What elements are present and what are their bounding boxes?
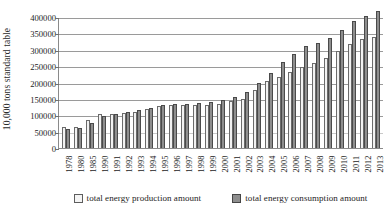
bar-group [132,18,144,148]
bar-group [155,18,167,148]
x-tick: 2012 [358,150,370,186]
x-tick: 2007 [298,150,310,186]
bar-consumption [221,100,225,148]
bar-consumption [233,97,237,148]
bar-group [143,18,155,148]
bar-consumption [197,103,201,148]
x-axis-tick-labels: 1978198019851990199119921993199419951996… [58,150,383,186]
legend-item[interactable]: total energy production amount [74,193,202,203]
x-tick: 1997 [179,150,191,186]
bar-consumption [126,112,130,148]
bar-group [251,18,263,148]
x-tick: 2010 [334,150,346,186]
bar-group [322,18,334,148]
bar-group [263,18,275,148]
x-tick: 2005 [274,150,286,186]
energy-bar-chart: 10,000 tons standard table 0500001000001… [0,0,391,214]
bar-group [167,18,179,148]
y-tick-label: 0 [14,145,56,154]
bar-consumption [281,62,285,148]
bar-group [108,18,120,148]
bar-group [60,18,72,148]
legend-label: total energy production amount [87,193,202,203]
bar-consumption [66,129,70,148]
bar-group [227,18,239,148]
plot-area [58,18,383,149]
y-tick-label: 50000 [14,129,56,138]
y-tick-label: 300000 [14,47,56,56]
bar-consumption [304,46,308,148]
x-tick: 2003 [251,150,263,186]
x-tick: 2002 [239,150,251,186]
bar-group [215,18,227,148]
bar-group [334,18,346,148]
bar-consumption [364,16,368,148]
x-tick: 1991 [107,150,119,186]
x-tick: 1995 [155,150,167,186]
x-tick: 2013 [370,150,382,186]
x-tick: 2009 [322,150,334,186]
x-tick: 2008 [310,150,322,186]
bar-consumption [161,105,165,148]
bar-consumption [269,73,273,148]
bar-consumption [149,108,153,148]
y-tick-label: 150000 [14,96,56,105]
x-tick-label: 2013 [376,156,385,173]
legend-swatch-consumption [232,194,241,203]
bar-group [179,18,191,148]
bar-group [84,18,96,148]
bar-consumption [328,38,332,148]
bar-group [310,18,322,148]
y-tick-label: 250000 [14,63,56,72]
bar-consumption [316,43,320,148]
bar-consumption [185,104,189,149]
y-axis-tick-labels: 0500001000001500002000002500003000003500… [14,18,56,149]
bar-group [203,18,215,148]
bar-consumption [114,114,118,148]
bar-group [96,18,108,148]
x-tick: 2000 [215,150,227,186]
bar-group [298,18,310,148]
x-tick: 2004 [262,150,274,186]
x-tick: 2011 [346,150,358,186]
x-tick: 1990 [95,150,107,186]
x-tick: 1980 [71,150,83,186]
bar-group [239,18,251,148]
bar-consumption [292,54,296,148]
bar-consumption [102,116,106,148]
x-tick: 2006 [286,150,298,186]
x-tick: 1985 [83,150,95,186]
y-tick-label: 100000 [14,112,56,121]
bar-group [72,18,84,148]
bar-consumption [352,21,356,148]
x-tick: 1992 [119,150,131,186]
bar-group [346,18,358,148]
bar-group [191,18,203,148]
bar-groups [59,18,383,148]
bar-consumption [137,110,141,148]
bar-group [287,18,299,148]
bar-group [370,18,382,148]
bar-group [275,18,287,148]
x-tick: 2001 [227,150,239,186]
bar-consumption [209,102,213,148]
bar-consumption [90,123,94,148]
x-tick: 1996 [167,150,179,186]
bar-consumption [173,104,177,148]
y-tick-label: 350000 [14,30,56,39]
y-tick-label: 200000 [14,80,56,89]
chart-legend: total energy production amounttotal ener… [58,190,383,206]
bar-consumption [245,92,249,148]
bar-consumption [340,30,344,148]
x-tick: 1978 [59,150,71,186]
x-tick: 1998 [191,150,203,186]
x-tick: 1999 [203,150,215,186]
bar-group [358,18,370,148]
legend-item[interactable]: total energy consumption amount [232,193,367,203]
bar-consumption [376,11,380,148]
x-tick: 1994 [143,150,155,186]
bar-group [120,18,132,148]
bar-consumption [257,83,261,148]
legend-label: total energy consumption amount [245,193,367,203]
legend-swatch-production [74,194,83,203]
